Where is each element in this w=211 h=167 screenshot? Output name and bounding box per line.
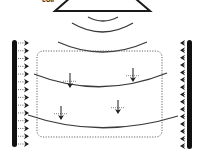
wave-arc (72, 23, 133, 32)
field-lines (28, 73, 178, 128)
diagram-canvas (0, 0, 211, 167)
field-line (34, 73, 167, 87)
wave-arc (88, 17, 118, 21)
electrode-bar (12, 40, 17, 147)
coil-label: coil (42, 0, 54, 3)
left-electrode (12, 40, 29, 147)
down-arrow-icon (54, 106, 68, 120)
down-arrow-icon (63, 73, 77, 88)
down-arrow-icon (126, 68, 140, 82)
force-arrows (54, 68, 140, 120)
wave-arc (58, 42, 147, 52)
electrode-bar (187, 40, 192, 149)
field-line (28, 115, 178, 128)
right-electrode (180, 40, 192, 149)
triangle-outline (55, 0, 150, 11)
source-triangle-icon (55, 0, 150, 11)
emitted-waves (58, 17, 147, 52)
field-diagram: coil (0, 0, 211, 167)
down-arrow-icon (111, 100, 125, 114)
